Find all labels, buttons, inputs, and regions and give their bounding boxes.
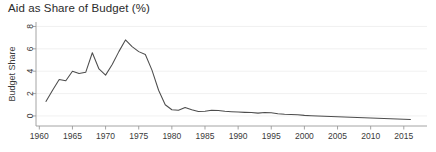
y-axis-title: Budget Share: [7, 46, 17, 101]
x-tick-labels: 1960196519701975198019851990199520002005…: [30, 131, 414, 141]
x-tick-marks: [39, 126, 403, 130]
y-tick-label: 4: [25, 69, 35, 74]
x-tick-label: 2010: [361, 131, 380, 141]
y-tick-label: 2: [25, 91, 35, 96]
x-tick-label: 1980: [162, 131, 181, 141]
x-tick-label: 2000: [295, 131, 314, 141]
x-tick-label: 2005: [328, 131, 347, 141]
y-tick-label: 8: [25, 24, 35, 29]
series-line-budget-share: [46, 40, 410, 120]
x-tick-label: 1965: [63, 131, 82, 141]
x-tick-label: 2015: [394, 131, 413, 141]
y-tick-labels: 02468: [25, 24, 35, 118]
chart-container: Aid as Share of Budget (%) 02468 1960196…: [0, 0, 436, 152]
x-tick-label: 1970: [96, 131, 115, 141]
x-tick-label: 1990: [229, 131, 248, 141]
gridlines: [36, 26, 427, 115]
x-tick-label: 1960: [30, 131, 49, 141]
x-tick-label: 1995: [262, 131, 281, 141]
x-tick-label: 1975: [129, 131, 148, 141]
y-tick-label: 0: [25, 113, 35, 118]
x-tick-label: 1985: [196, 131, 215, 141]
line-chart-plot: 02468 1960196519701975198019851990199520…: [0, 0, 436, 152]
y-tick-label: 6: [25, 46, 35, 51]
